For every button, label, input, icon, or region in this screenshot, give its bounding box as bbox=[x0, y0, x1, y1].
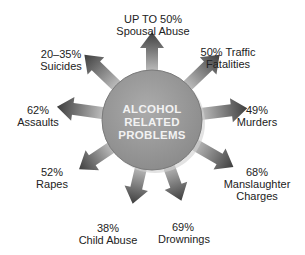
label-suicides: 20–35%Suicides bbox=[38, 48, 84, 72]
label-child-abuse: 38%Child Abuse bbox=[78, 222, 138, 246]
label-murders: 49%Murders bbox=[232, 104, 282, 128]
label-rapes: 52%Rapes bbox=[34, 166, 70, 190]
label-manslaughter: 68%ManslaughterCharges bbox=[222, 166, 292, 202]
center-line-1: ALCOHOL bbox=[112, 103, 192, 116]
arrow-spousal-abuse-icon bbox=[140, 32, 164, 75]
label-drownings: 69%Drownings bbox=[158, 221, 208, 245]
center-title: ALCOHOL RELATED PROBLEMS bbox=[112, 103, 192, 142]
label-traffic-fatalities: 50% TrafficFatalities bbox=[196, 46, 260, 70]
center-line-2: RELATED bbox=[112, 116, 192, 129]
arrow-assaults-icon bbox=[55, 95, 109, 126]
label-assaults: 62%Assaults bbox=[16, 104, 60, 128]
label-spousal-abuse: UP TO 50%Spousal Abuse bbox=[108, 13, 198, 37]
center-line-3: PROBLEMS bbox=[112, 129, 192, 142]
